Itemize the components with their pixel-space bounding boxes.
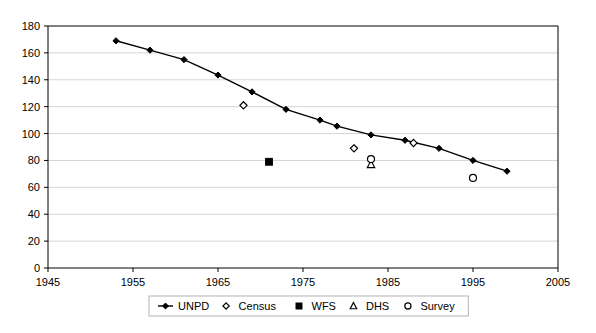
- chart-container: 020406080100120140160180 194519551965197…: [0, 0, 596, 333]
- legend-marker-survey: [405, 303, 411, 309]
- legend-label-unpd: UNPD: [178, 300, 209, 312]
- y-tick-label-80: 80: [28, 154, 40, 166]
- legend-label-wfs: WFS: [312, 300, 336, 312]
- y-tick-label-100: 100: [22, 128, 40, 140]
- x-tick-label-1945: 1945: [36, 276, 60, 288]
- x-tick-label-1965: 1965: [206, 276, 230, 288]
- x-tick-label-2005: 2005: [546, 276, 570, 288]
- x-tick-label-1995: 1995: [461, 276, 485, 288]
- line-scatter-chart: 020406080100120140160180 194519551965197…: [0, 0, 596, 333]
- y-tick-label-160: 160: [22, 47, 40, 59]
- chart-legend: UNPDCensusWFSDHSSurvey: [149, 296, 468, 316]
- x-tick-label-1975: 1975: [291, 276, 315, 288]
- datapoint-survey-0: [368, 156, 375, 163]
- legend-marker-wfs: [296, 303, 302, 309]
- y-tick-label-140: 140: [22, 74, 40, 86]
- y-tick-label-0: 0: [34, 262, 40, 274]
- y-tick-label-20: 20: [28, 235, 40, 247]
- datapoint-wfs-0: [266, 158, 273, 165]
- y-tick-label-120: 120: [22, 101, 40, 113]
- series-wfs: [266, 158, 273, 165]
- x-tick-label-1985: 1985: [376, 276, 400, 288]
- legend-label-survey: Survey: [420, 300, 455, 312]
- datapoint-survey-1: [470, 174, 477, 181]
- legend-label-census: Census: [239, 300, 277, 312]
- legend-label-dhs: DHS: [366, 300, 389, 312]
- x-tick-label-1955: 1955: [121, 276, 145, 288]
- y-tick-label-40: 40: [28, 208, 40, 220]
- y-tick-label-180: 180: [22, 20, 40, 32]
- y-tick-label-60: 60: [28, 181, 40, 193]
